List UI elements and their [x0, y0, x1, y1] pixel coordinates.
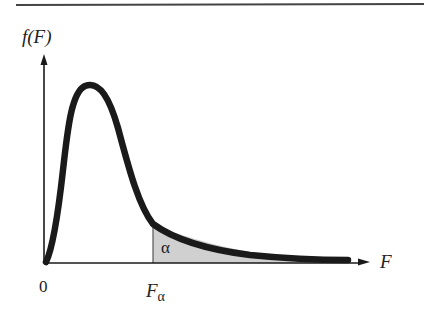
x-axis-label: F — [380, 252, 392, 271]
critical-value-label: Fα — [146, 281, 165, 300]
density-curve — [46, 85, 348, 262]
y-axis-label: f(F) — [22, 27, 52, 46]
critical-value-main: F — [146, 280, 158, 301]
critical-value-subscript: α — [158, 289, 165, 304]
f-distribution-diagram — [0, 0, 424, 313]
origin-label: 0 — [39, 278, 48, 295]
top-rule — [16, 4, 424, 5]
y-axis-arrow-icon — [41, 54, 48, 65]
shaded-area-label: α — [161, 239, 170, 256]
x-axis-arrow-icon — [358, 259, 370, 266]
